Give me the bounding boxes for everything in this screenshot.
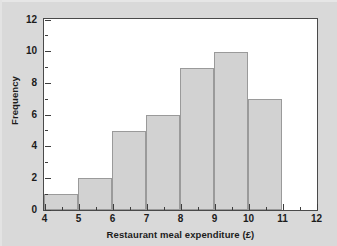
- x-minor-tick: [198, 207, 199, 210]
- x-minor-tick: [62, 207, 63, 210]
- x-tick-label: 12: [307, 213, 327, 224]
- y-tick: [45, 178, 51, 179]
- x-minor-tick: [266, 207, 267, 210]
- y-tick: [45, 83, 51, 84]
- x-tick: [79, 204, 80, 210]
- y-tick: [45, 115, 51, 116]
- y-minor-tick: [45, 67, 48, 68]
- histogram-bar: [112, 131, 146, 210]
- page-edge-left: [0, 0, 2, 246]
- x-tick: [113, 204, 114, 210]
- x-tick-label: 9: [205, 213, 225, 224]
- y-tick: [45, 210, 51, 211]
- x-minor-tick: [164, 207, 165, 210]
- x-axis-title: Restaurant meal expenditure (£): [43, 229, 318, 240]
- y-tick-label: 0: [15, 204, 37, 215]
- y-minor-tick: [45, 130, 48, 131]
- histogram-bar: [248, 99, 282, 210]
- x-minor-tick: [232, 207, 233, 210]
- x-tick-label: 5: [69, 213, 89, 224]
- histogram-bar: [146, 115, 180, 210]
- y-tick: [45, 20, 51, 21]
- x-tick-label: 11: [273, 213, 293, 224]
- page-edge-top: [0, 0, 337, 2]
- y-tick: [45, 146, 51, 147]
- y-minor-tick: [45, 35, 48, 36]
- y-minor-tick: [45, 162, 48, 163]
- plot-frame: [43, 18, 318, 211]
- x-tick: [317, 204, 318, 210]
- histogram-bar: [214, 52, 248, 210]
- y-axis-title: Frequency: [9, 61, 20, 141]
- x-tick: [181, 204, 182, 210]
- x-tick-label: 4: [35, 213, 55, 224]
- histogram-figure: 456789101112024681012 Restaurant meal ex…: [0, 0, 337, 246]
- y-minor-tick: [45, 99, 48, 100]
- x-tick-label: 7: [137, 213, 157, 224]
- y-tick-label: 2: [15, 172, 37, 183]
- y-minor-tick: [45, 194, 48, 195]
- x-tick: [283, 204, 284, 210]
- x-minor-tick: [96, 207, 97, 210]
- x-tick: [147, 204, 148, 210]
- y-tick: [45, 51, 51, 52]
- y-tick-label: 12: [15, 14, 37, 25]
- x-tick-label: 10: [239, 213, 259, 224]
- x-tick: [215, 204, 216, 210]
- x-tick-label: 6: [103, 213, 123, 224]
- histogram-bar: [78, 178, 112, 210]
- x-minor-tick: [130, 207, 131, 210]
- plot-area: [44, 19, 317, 210]
- x-tick-label: 8: [171, 213, 191, 224]
- y-tick-label: 10: [15, 45, 37, 56]
- y-tick-label: 4: [15, 140, 37, 151]
- x-minor-tick: [300, 207, 301, 210]
- x-tick: [249, 204, 250, 210]
- histogram-bar: [180, 68, 214, 211]
